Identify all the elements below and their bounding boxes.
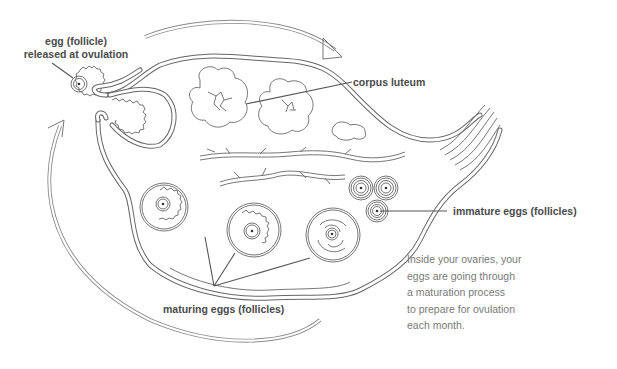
released-egg-label-line2: released at ovulation	[20, 48, 132, 61]
maturing-follicle-2	[227, 203, 281, 257]
ovary-diagram: egg (follicle) released at ovulation cor…	[0, 0, 617, 369]
corpus-luteum-2	[259, 79, 313, 134]
corpus-luteum-pointer	[246, 82, 352, 104]
released-egg-label-line1: egg (follicle)	[20, 35, 132, 48]
maturing-follicle-3	[306, 208, 360, 262]
immature-follicle-1	[349, 176, 373, 200]
immature-follicle-2	[374, 176, 398, 200]
caption-line: a maturation process	[407, 284, 607, 301]
corpus-luteum-small	[332, 122, 366, 140]
caption-line: Inside your ovaries, your	[407, 251, 607, 268]
maturing-eggs-pointers	[205, 237, 310, 286]
ruptured-follicle	[110, 89, 174, 146]
corpus-luteum-1	[189, 67, 247, 127]
blood-vessels	[200, 147, 405, 186]
maturing-follicle-1	[140, 183, 188, 231]
corpus-luteum-label: corpus luteum	[353, 76, 425, 89]
caption-line: to prepare for ovulation	[407, 301, 607, 318]
released-egg-label: egg (follicle) released at ovulation	[20, 35, 132, 61]
caption-text: Inside your ovaries, your eggs are going…	[407, 251, 607, 334]
caption-line: eggs are going through	[407, 268, 607, 285]
immature-eggs-label: immature eggs (follicles)	[453, 205, 577, 218]
caption-line: each month.	[407, 317, 607, 334]
maturing-eggs-label: maturing eggs (follicles)	[163, 303, 284, 316]
cycle-arrow-top-icon	[145, 22, 342, 59]
